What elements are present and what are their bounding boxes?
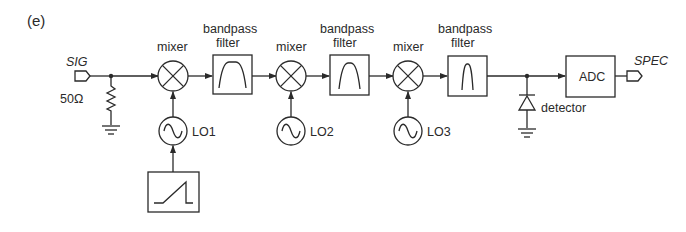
spec-label: SPEC [634, 54, 669, 68]
mixer1-icon [158, 61, 188, 91]
lo1-label: LO1 [192, 125, 216, 139]
filter3-label-line1: bandpass [438, 22, 492, 36]
diode-icon [519, 76, 535, 128]
spec-port-icon [627, 71, 642, 81]
filter2-label-line2: filter [333, 36, 357, 50]
bandpass-filter1-icon [213, 55, 252, 94]
ramp-generator-icon [148, 172, 199, 212]
filter1-label-line2: filter [216, 36, 240, 50]
bandpass-filter3-icon [448, 56, 487, 96]
mixer1-label: mixer [157, 40, 188, 54]
lo2-label: LO2 [310, 125, 334, 139]
lo2-oscillator-icon [277, 117, 305, 145]
detector-label: detector [541, 101, 586, 115]
bandpass-filter2-icon [330, 55, 369, 95]
filter1-label-line1: bandpass [203, 22, 257, 36]
mixer3-label: mixer [393, 40, 424, 54]
mixer2-icon [276, 61, 306, 91]
lo3-oscillator-icon [394, 117, 422, 145]
sig-label: SIG [66, 55, 88, 69]
block-diagram: (e) SIG 50Ω mixer LO1 bandpass filter [0, 0, 686, 232]
panel-label: (e) [27, 12, 45, 29]
filter3-label-line2: filter [451, 36, 475, 50]
adc-label: ADC [579, 70, 605, 84]
lo3-label: LO3 [427, 125, 451, 139]
ground-icon [518, 129, 536, 137]
ground-icon [102, 126, 120, 134]
lo1-oscillator-icon [159, 117, 187, 145]
sig-port-icon [75, 71, 90, 81]
resistor-label: 50Ω [60, 92, 83, 106]
filter2-label-line1: bandpass [320, 22, 374, 36]
resistor-icon [107, 76, 115, 125]
mixer2-label: mixer [276, 40, 307, 54]
mixer3-icon [393, 61, 423, 91]
